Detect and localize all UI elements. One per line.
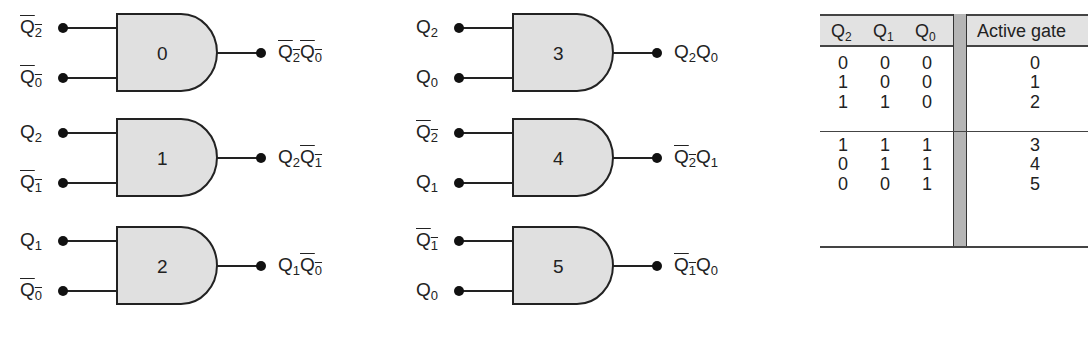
cell-q0: 1 <box>907 175 947 193</box>
input-label-a: Q2 <box>416 122 438 144</box>
input-label-b: Q1 <box>20 172 42 194</box>
header-active-gate: Active gate <box>977 21 1066 42</box>
cell-q2: 0 <box>823 175 863 193</box>
table-bottom-rule <box>820 246 1088 248</box>
gate-number: 1 <box>157 148 168 170</box>
output-label: Q2Q0 <box>674 42 718 64</box>
cell-q1: 0 <box>865 175 905 193</box>
cell-gate: 2 <box>1015 93 1055 111</box>
gate-number: 5 <box>553 256 564 278</box>
input-label-b: Q0 <box>20 280 42 302</box>
header-q1: Q1 <box>873 21 894 44</box>
cell-q0: 1 <box>907 136 947 154</box>
input-label-b: Q0 <box>416 280 438 302</box>
cell-q2: 0 <box>823 54 863 72</box>
output-label: Q2Q1 <box>278 147 322 169</box>
cell-q1: 1 <box>865 136 905 154</box>
header-q2: Q2 <box>831 21 852 44</box>
cell-gate: 4 <box>1015 155 1055 173</box>
cell-q2: 1 <box>823 136 863 154</box>
input-label-b: Q0 <box>416 67 438 89</box>
cell-q1: 1 <box>865 93 905 111</box>
input-label-a: Q2 <box>20 17 42 39</box>
cell-q0: 0 <box>907 73 947 91</box>
cell-q2: 1 <box>823 93 863 111</box>
output-label: Q1Q0 <box>674 255 718 277</box>
output-label: Q1Q0 <box>278 255 322 277</box>
gate-number: 3 <box>553 43 564 65</box>
input-label-a: Q1 <box>20 230 42 252</box>
cell-q0: 0 <box>907 93 947 111</box>
output-label: Q2Q0 <box>278 42 322 64</box>
table-divider-bar <box>953 14 967 246</box>
cell-gate: 3 <box>1015 136 1055 154</box>
cell-gate: 0 <box>1015 54 1055 72</box>
gate-number: 4 <box>553 148 564 170</box>
gate-number: 0 <box>157 43 168 65</box>
cell-q2: 0 <box>823 155 863 173</box>
input-label-a: Q2 <box>416 17 438 39</box>
input-label-b: Q1 <box>416 172 438 194</box>
cell-q1: 0 <box>865 54 905 72</box>
cell-q2: 1 <box>823 73 863 91</box>
cell-gate: 1 <box>1015 73 1055 91</box>
cell-q0: 1 <box>907 155 947 173</box>
cell-q0: 0 <box>907 54 947 72</box>
cell-q1: 0 <box>865 73 905 91</box>
input-label-a: Q1 <box>416 230 438 252</box>
output-label: Q2Q1 <box>674 147 718 169</box>
header-q0: Q0 <box>915 21 936 44</box>
cell-q1: 1 <box>865 155 905 173</box>
input-label-b: Q0 <box>20 67 42 89</box>
cell-gate: 5 <box>1015 175 1055 193</box>
input-label-a: Q2 <box>20 122 42 144</box>
table-mid-rule <box>820 131 1088 132</box>
gate-number: 2 <box>157 256 168 278</box>
